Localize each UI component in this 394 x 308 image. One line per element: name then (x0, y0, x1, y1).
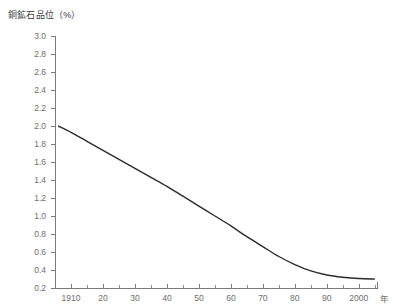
x-axis-unit-label: 年 (380, 292, 389, 304)
y-axis-ticks: 3.02.82.62.42.22.01.81.61.41.21.00.80.60… (34, 31, 55, 293)
y-tick-label: 0.4 (34, 265, 46, 275)
y-tick-label: 1.4 (34, 175, 46, 185)
x-tick-label: 1910 (62, 293, 81, 303)
x-tick-label: 2000 (349, 293, 368, 303)
y-tick-label: 1.8 (34, 139, 46, 149)
y-tick-label: 1.6 (34, 157, 46, 167)
x-tick-label: 70 (258, 293, 268, 303)
x-tick-label: 20 (98, 293, 108, 303)
x-tick-label: 40 (162, 293, 172, 303)
y-tick-label: 2.6 (34, 67, 46, 77)
line-chart-plot: 3.02.82.62.42.22.01.81.61.41.21.00.80.60… (0, 0, 394, 308)
y-tick-label: 2.0 (34, 121, 46, 131)
y-tick-label: 2.4 (34, 85, 46, 95)
y-tick-label: 1.2 (34, 193, 46, 203)
x-tick-label: 30 (130, 293, 140, 303)
y-tick-label: 2.8 (34, 49, 46, 59)
y-tick-label: 3.0 (34, 31, 46, 41)
x-tick-label: 60 (226, 293, 236, 303)
x-tick-label: 90 (322, 293, 332, 303)
x-tick-label: 80 (290, 293, 300, 303)
x-tick-label: 50 (194, 293, 204, 303)
x-axis-ticks: 191020304050607080902000 (62, 282, 378, 303)
y-tick-label: 0.8 (34, 229, 46, 239)
y-tick-label: 2.2 (34, 103, 46, 113)
y-tick-label: 0.6 (34, 247, 46, 257)
copper-ore-grade-curve (58, 126, 375, 279)
y-tick-label: 0.2 (34, 283, 46, 293)
chart-page: 銅鉱石品位（%） 3.02.82.62.42.22.01.81.61.41.21… (0, 0, 394, 308)
y-tick-label: 1.0 (34, 211, 46, 221)
